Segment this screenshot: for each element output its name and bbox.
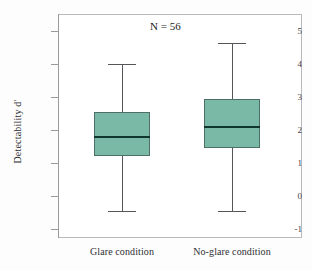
y-axis-tick — [51, 196, 58, 197]
y-axis-tick-label: 5 — [266, 27, 312, 36]
y-axis-title: Detectability d' — [12, 67, 23, 197]
upper-whisker — [232, 43, 233, 99]
y-axis-line — [58, 14, 59, 238]
lower-whisker-cap — [218, 211, 246, 212]
y-axis-tick-label: 4 — [266, 60, 312, 69]
sample-size-annotation: N = 56 — [150, 20, 181, 32]
lower-whisker-cap — [108, 211, 136, 212]
lower-whisker — [232, 148, 233, 211]
y-axis-tick — [51, 97, 58, 98]
median-line — [94, 136, 150, 138]
y-axis-tick — [51, 31, 58, 32]
y-axis-tick-label: -1 — [266, 225, 312, 234]
median-line — [204, 126, 260, 128]
y-axis-tick-label: 1 — [266, 159, 312, 168]
y-axis-tick — [51, 130, 58, 131]
upper-whisker-cap — [108, 64, 136, 65]
y-axis-tick — [51, 64, 58, 65]
box-iqr — [204, 99, 260, 149]
y-axis-tick — [51, 163, 58, 164]
upper-whisker — [122, 64, 123, 112]
upper-whisker-cap — [218, 43, 246, 44]
x-axis-label-2: No-glare condition — [167, 246, 297, 257]
y-axis-tick-label: 0 — [266, 192, 312, 201]
boxplot-figure: 543210-1 Detectability d' Glare conditio… — [0, 0, 312, 271]
lower-whisker — [122, 156, 123, 211]
y-axis-tick-label: 2 — [266, 126, 312, 135]
box-iqr — [94, 112, 150, 156]
y-axis-tick — [51, 229, 58, 230]
y-axis-tick-label: 3 — [266, 93, 312, 102]
